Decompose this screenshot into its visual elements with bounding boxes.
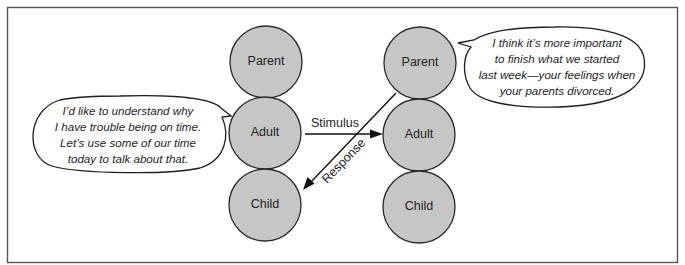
right-child-label: Child: [405, 199, 434, 213]
left-child-label: Child: [251, 197, 280, 211]
right-adult-label: Adult: [405, 127, 434, 141]
left-bubble-line: I have trouble being on time.: [55, 120, 201, 133]
left-parent-label: Parent: [248, 54, 285, 68]
right-bubble-line: your parents divorced.: [499, 84, 615, 97]
left-bubble-line: today to talk about that.: [68, 152, 189, 165]
left-bubble-line: I’d like to understand why: [63, 104, 195, 117]
right-bubble-line: last week—your feelings when: [479, 68, 636, 81]
left-speech-bubble: I’d like to understand why I have troubl…: [33, 96, 231, 173]
right-bubble-line: I think it’s more important: [492, 36, 622, 49]
response-arrow: Response: [303, 93, 396, 190]
right-ego-states: Parent Adult Child: [383, 27, 456, 243]
left-ego-states: Parent Adult Child: [229, 26, 302, 241]
right-bubble-line: to finish what we started: [495, 52, 620, 65]
left-adult-label: Adult: [251, 125, 280, 139]
response-label: Response: [319, 136, 368, 186]
stimulus-label: Stimulus: [311, 116, 359, 130]
stimulus-arrowhead: [370, 130, 383, 139]
left-bubble-line: Let’s use some of our time: [60, 136, 196, 149]
right-speech-bubble: I think it’s more important to finish wh…: [458, 27, 645, 107]
diagram-canvas: I’d like to understand why I have troubl…: [0, 0, 685, 265]
response-arrowhead: [303, 177, 315, 190]
right-parent-label: Parent: [402, 55, 439, 69]
